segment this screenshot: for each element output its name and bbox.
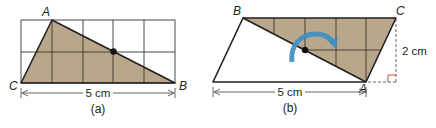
dimension-label-b: 5 cm — [278, 86, 303, 98]
caption-a: (a) — [91, 102, 106, 116]
triangle-acb-fill — [21, 20, 175, 83]
diagram-stage: A C B 5 cm (a) — [0, 0, 436, 128]
caption-b: (b) — [283, 101, 298, 115]
midpoint-dot-a — [110, 48, 116, 54]
diagram-svg: A C B 5 cm (a) — [0, 0, 436, 128]
vertex-label-c: C — [396, 4, 405, 18]
vertex-label-b: B — [233, 4, 241, 18]
right-angle-marker — [388, 75, 396, 82]
vertex-label-b: B — [179, 79, 187, 93]
vertex-label-a: A — [41, 5, 50, 19]
dimension-label-a: 5 cm — [86, 87, 111, 99]
figure-a: A C B 5 cm (a) — [9, 5, 187, 116]
height-label: 2 cm — [402, 45, 427, 57]
midpoint-dot-b — [302, 47, 308, 53]
vertex-label-c: C — [9, 79, 18, 93]
figure-b: B C A 2 cm 5 cm (b) — [200, 4, 427, 115]
